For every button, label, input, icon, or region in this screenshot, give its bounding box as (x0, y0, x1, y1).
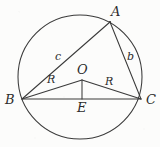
point-a-marker (109, 21, 111, 23)
label-side-b: b (127, 51, 134, 62)
segment-ac (110, 22, 141, 99)
label-vertex-b: B (5, 93, 15, 106)
label-center-o: O (77, 63, 88, 76)
label-radius-right: R (105, 76, 113, 87)
label-vertex-a: A (111, 5, 120, 18)
geometry-figure: A B C O E c b R R (0, 0, 160, 147)
label-point-e: E (77, 101, 87, 114)
label-vertex-c: C (146, 93, 156, 106)
label-radius-left: R (47, 74, 55, 85)
circumcircle (18, 15, 142, 139)
label-side-c: c (55, 51, 61, 62)
